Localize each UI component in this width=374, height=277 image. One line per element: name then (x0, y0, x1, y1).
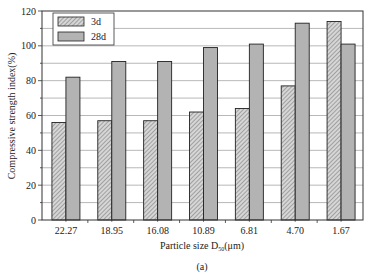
bar-28d-16.08 (158, 62, 172, 220)
bar-28d-6.81 (249, 44, 263, 220)
x-tick-label: 22.27 (55, 225, 78, 236)
y-tick-label: 80 (26, 75, 36, 86)
bar-3d-18.95 (98, 121, 112, 220)
y-axis: 020406080100120 (21, 6, 42, 226)
x-tick-label: 18.95 (101, 225, 124, 236)
figure-caption: (a) (196, 261, 207, 273)
legend: 3d 28d (53, 13, 114, 45)
x-tick-label: 1.67 (332, 225, 350, 236)
bar-28d-18.95 (112, 62, 126, 220)
x-tick-label: 16.08 (146, 225, 169, 236)
x-tick-label: 6.81 (241, 225, 259, 236)
bar-28d-10.89 (204, 48, 218, 220)
bars (52, 21, 355, 220)
y-tick-label: 60 (26, 110, 36, 121)
bar-3d-6.81 (235, 109, 249, 220)
x-tick-label: 10.89 (192, 225, 215, 236)
x-axis-title: Particle size D50(μm) (160, 240, 244, 252)
y-tick-label: 40 (26, 145, 36, 156)
y-tick-label: 20 (26, 180, 36, 191)
legend-label-28d: 28d (91, 31, 106, 42)
bar-3d-4.70 (281, 86, 295, 220)
y-tick-label: 0 (31, 215, 36, 226)
bar-3d-1.67 (327, 21, 341, 220)
legend-swatch-28d (58, 32, 84, 41)
legend-label-3d: 3d (91, 16, 101, 27)
bar-chart: 020406080100120 22.2718.9516.0810.896.81… (0, 0, 374, 277)
bar-3d-10.89 (190, 112, 204, 220)
y-axis-title: Compressive strength index(%) (6, 53, 18, 180)
bar-3d-22.27 (52, 122, 66, 220)
x-tick-label: 4.70 (286, 225, 304, 236)
y-tick-label: 120 (21, 6, 36, 17)
y-tick-label: 100 (21, 40, 36, 51)
bar-28d-1.67 (341, 44, 355, 220)
bar-28d-22.27 (66, 77, 80, 220)
bar-28d-4.70 (295, 23, 309, 220)
x-axis: 22.2718.9516.0810.896.814.701.67 (55, 220, 350, 236)
bar-3d-16.08 (144, 121, 158, 220)
legend-swatch-3d (58, 17, 84, 26)
